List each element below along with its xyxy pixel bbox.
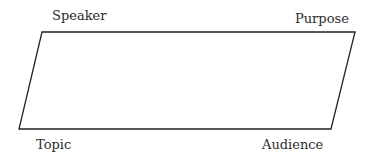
label-purpose: Purpose <box>295 12 349 25</box>
parallelogram-shape <box>19 32 355 129</box>
label-topic: Topic <box>36 138 71 151</box>
label-speaker: Speaker <box>52 9 106 22</box>
label-audience: Audience <box>262 138 323 151</box>
